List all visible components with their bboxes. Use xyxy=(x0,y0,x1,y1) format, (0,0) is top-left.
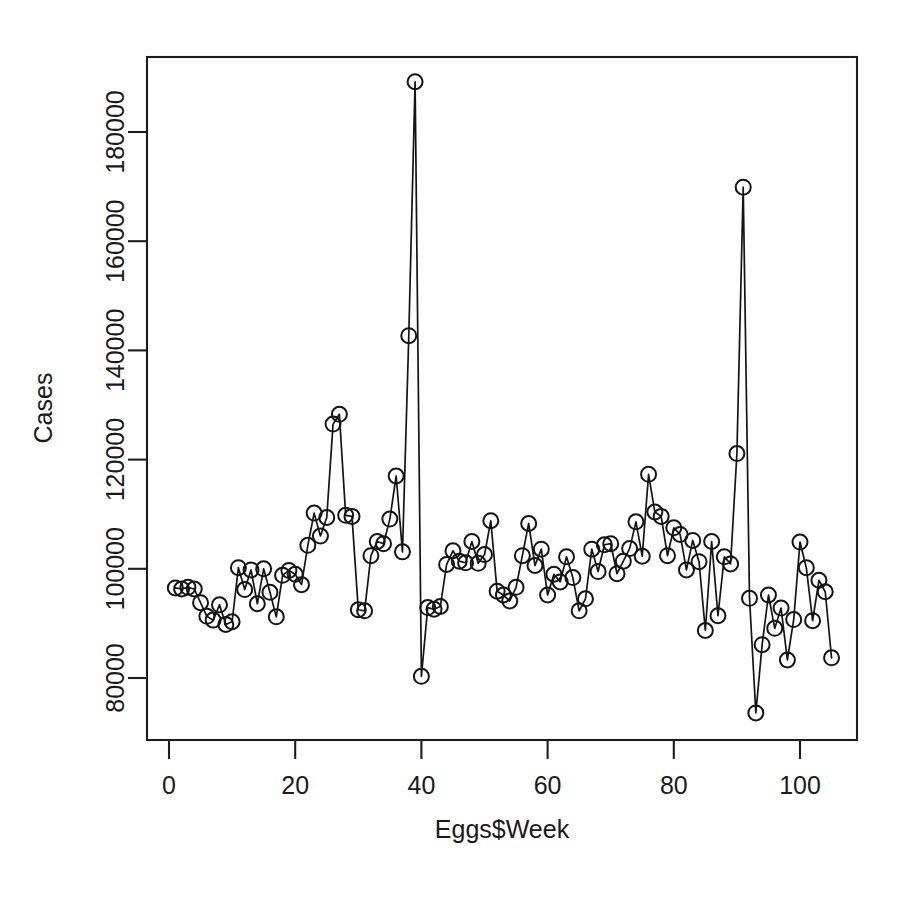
chart-svg: 020406080100 800001000001200001400001600… xyxy=(0,0,900,898)
y-tick-label: 160000 xyxy=(101,199,129,282)
x-tick-label: 100 xyxy=(779,771,821,799)
x-tick-label: 40 xyxy=(407,771,435,799)
y-tick-label: 120000 xyxy=(101,418,129,501)
x-tick-label: 60 xyxy=(534,771,562,799)
y-tick-label: 140000 xyxy=(101,309,129,392)
x-tick-label: 20 xyxy=(281,771,309,799)
y-tick-label: 180000 xyxy=(101,90,129,173)
y-tick-label: 100000 xyxy=(101,527,129,610)
chart-background xyxy=(0,0,900,898)
chart-canvas: 020406080100 800001000001200001400001600… xyxy=(0,0,900,898)
x-axis-title: Eggs$Week xyxy=(435,815,570,843)
y-axis-title: Cases xyxy=(29,373,57,444)
x-tick-label: 80 xyxy=(660,771,688,799)
y-tick-label: 80000 xyxy=(101,643,129,713)
x-tick-label: 0 xyxy=(162,771,176,799)
